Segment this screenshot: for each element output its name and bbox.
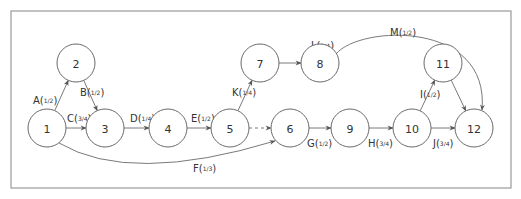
node-label: 6 [287, 123, 294, 136]
node-label: 7 [257, 58, 264, 71]
activity-label-b: B(1/2) [80, 87, 104, 98]
labels-layer: A(1/2)B(1/2)C(3/4)D(1/4)E(1/2)F(1/3)G(1/… [33, 27, 454, 174]
node-2: 2 [57, 44, 95, 82]
activity-label-j: J(3/4) [432, 138, 454, 149]
node-1: 1 [28, 109, 66, 147]
node-label: 8 [317, 58, 324, 71]
activity-label-a: A(1/2) [33, 95, 57, 106]
node-7: 7 [241, 44, 279, 82]
node-3: 3 [86, 109, 124, 147]
node-8: 8 [301, 44, 339, 82]
node-6: 6 [271, 109, 309, 147]
activity-label-e: E(1/2) [191, 113, 215, 124]
node-4: 4 [149, 109, 187, 147]
node-label: 10 [405, 123, 419, 136]
network-diagram: A(1/2)B(1/2)C(3/4)D(1/4)E(1/2)F(1/3)G(1/… [0, 0, 521, 199]
node-label: 4 [165, 123, 172, 136]
node-label: 2 [73, 58, 80, 71]
activity-label-f: F(1/3) [193, 163, 216, 174]
node-9: 9 [331, 109, 369, 147]
activity-label-h: H(3/4) [368, 138, 393, 149]
node-11: 11 [424, 44, 462, 82]
node-5: 5 [211, 109, 249, 147]
node-label: 3 [102, 123, 109, 136]
node-label: 12 [467, 123, 481, 136]
node-label: 1 [44, 123, 51, 136]
activity-label-m: M(1/2) [390, 27, 416, 38]
activity-label-i: I(1/2) [420, 89, 441, 100]
node-label: 5 [227, 123, 234, 136]
node-12: 12 [455, 109, 493, 147]
node-label: 9 [347, 123, 354, 136]
activity-label-g: G(1/2) [307, 138, 332, 149]
edge-11-to-12 [451, 80, 466, 111]
node-label: 11 [436, 58, 450, 71]
node-10: 10 [393, 109, 431, 147]
